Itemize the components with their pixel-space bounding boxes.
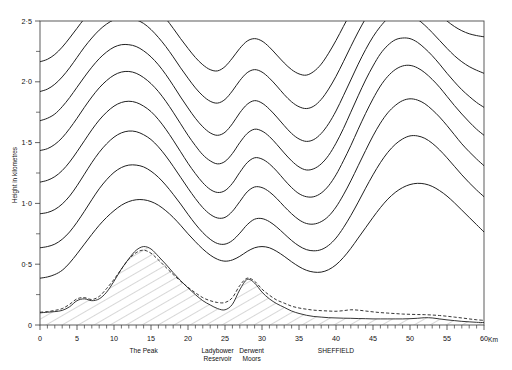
x-tick-label: 60 (480, 334, 488, 343)
x-tick-label: 10 (110, 334, 118, 343)
y-tick-label: 0 (28, 321, 32, 330)
x-tick-label: 45 (369, 334, 377, 343)
chart-figure: 00·51·01·52·02·5 05101520253035404550556… (0, 0, 512, 370)
x-tick-label: 35 (295, 334, 303, 343)
y-tick-label: 2·0 (22, 77, 32, 86)
x-tick-label: 5 (75, 334, 79, 343)
place-label-ladybower-reservoir: Reservoir (203, 355, 232, 362)
y-tick-label: 0·5 (22, 260, 32, 269)
x-axis-unit-label: Km (488, 336, 498, 343)
y-tick-label: 1·0 (22, 199, 32, 208)
place-label-the-peak: The Peak (129, 347, 158, 354)
x-tick-label: 0 (38, 334, 42, 343)
y-tick-label: 1·5 (22, 138, 32, 147)
x-tick-label: 30 (258, 334, 266, 343)
x-tick-label: 50 (406, 334, 414, 343)
y-axis-title: Height in kilometres (11, 147, 19, 203)
x-tick-label: 20 (184, 334, 192, 343)
y-tick-label: 2·5 (22, 17, 32, 26)
place-label-sheffield: SHEFFIELD (318, 347, 355, 354)
x-tick-label: 40 (332, 334, 340, 343)
x-tick-label: 55 (443, 334, 451, 343)
place-label-ladybower-reservoir: Ladybower (201, 347, 234, 355)
place-label-derwent-moors: Moors (242, 355, 261, 362)
terrain-airflow-cross-section-chart: 00·51·01·52·02·5 05101520253035404550556… (0, 0, 512, 370)
x-tick-label: 25 (221, 334, 229, 343)
place-label-derwent-moors: Derwent (239, 347, 264, 354)
x-tick-label: 15 (147, 334, 155, 343)
